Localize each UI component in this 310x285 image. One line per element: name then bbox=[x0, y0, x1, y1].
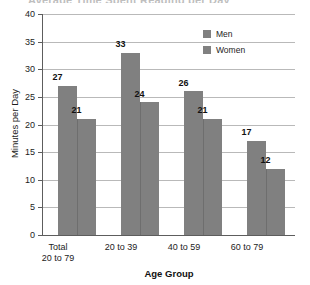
legend-item-women[interactable]: Women bbox=[203, 42, 283, 58]
y-axis-tick-label: 35 bbox=[0, 37, 35, 47]
legend-label-men: Men bbox=[216, 29, 233, 39]
x-axis-line bbox=[43, 235, 295, 236]
x-axis-label-40-to-59: 40 to 59 bbox=[154, 242, 214, 253]
y-axis-tick-label: 20 bbox=[0, 120, 35, 130]
bar-women-60-to-79[interactable] bbox=[266, 169, 285, 235]
value-label-women-20-39: 24 bbox=[130, 89, 149, 99]
x-axis-label-line1: 40 to 59 bbox=[168, 242, 201, 252]
legend-item-men[interactable]: Men bbox=[203, 26, 283, 42]
x-axis-label-line1: 20 to 39 bbox=[105, 242, 138, 252]
x-axis-label-20-to-39: 20 to 39 bbox=[91, 242, 151, 253]
y-axis-tick-label: 40 bbox=[0, 9, 35, 19]
value-label-women-40-59: 21 bbox=[193, 105, 212, 115]
x-axis-label-line1: Total bbox=[48, 242, 67, 252]
value-label-men-total: 27 bbox=[48, 72, 67, 82]
bar-women-40-to-59[interactable] bbox=[203, 119, 222, 235]
x-axis-title: Age Group bbox=[43, 268, 295, 279]
value-label-men-60-79: 17 bbox=[237, 127, 256, 137]
y-axis-tick-label: 25 bbox=[0, 92, 35, 102]
legend: Men Women bbox=[203, 26, 283, 58]
chart-title: Average Time Spent Reading per Day bbox=[28, 0, 238, 3]
y-axis-tick-label: 5 bbox=[0, 202, 35, 212]
x-axis-label-60-to-79: 60 to 79 bbox=[217, 242, 277, 253]
bar-women-20-to-39[interactable] bbox=[140, 102, 159, 235]
x-axis-label-total-20-to-79: Total 20 to 79 bbox=[28, 242, 88, 264]
y-axis-tick bbox=[38, 235, 43, 236]
value-label-women-60-79: 12 bbox=[256, 155, 275, 165]
legend-label-women: Women bbox=[216, 45, 245, 55]
value-label-men-20-39: 33 bbox=[111, 39, 130, 49]
legend-swatch-women-icon bbox=[203, 46, 211, 54]
x-axis-label-line1: 60 to 79 bbox=[231, 242, 264, 252]
x-axis-label-line2: 20 to 79 bbox=[28, 253, 88, 264]
bar-chart: Average Time Spent Reading per Day Minut… bbox=[0, 0, 310, 285]
legend-swatch-men-icon bbox=[203, 30, 211, 38]
value-label-women-total: 21 bbox=[67, 105, 86, 115]
y-axis-tick-label: 30 bbox=[0, 64, 35, 74]
y-axis-tick-label: 10 bbox=[0, 175, 35, 185]
value-label-men-40-59: 26 bbox=[174, 78, 193, 88]
bar-women-total-20-to-79[interactable] bbox=[77, 119, 96, 235]
y-axis-tick-label: 15 bbox=[0, 147, 35, 157]
y-axis-tick-label: 0 bbox=[0, 230, 35, 240]
bar-men-20-to-39[interactable] bbox=[121, 53, 140, 235]
